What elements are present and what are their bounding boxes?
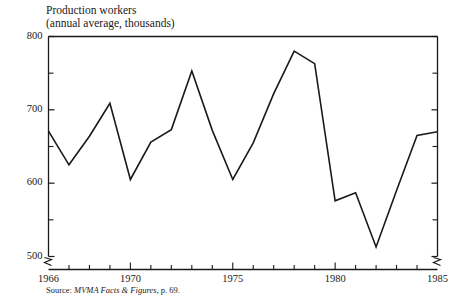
source-note: Source: MVMA Facts & Figures, p. 69. [46, 285, 180, 295]
source-suffix: , p. 69. [156, 285, 179, 295]
axis-break-mark [434, 258, 441, 266]
chart-plot-area [0, 0, 459, 304]
data-line-production-workers [49, 51, 438, 247]
x-tick-label-1966: 1966 [29, 273, 69, 284]
y-tick-label-700: 700 [13, 103, 43, 114]
y-tick-label-500: 500 [13, 250, 43, 261]
y-tick-label-600: 600 [13, 176, 43, 187]
x-tick-label-1970: 1970 [110, 273, 150, 284]
x-tick-label-1980: 1980 [315, 273, 355, 284]
chart-figure: Production workers (annual average, thou… [0, 0, 459, 304]
x-tick-label-1985: 1985 [418, 273, 458, 284]
axis-break-mark [45, 258, 52, 266]
source-prefix: Source: [46, 285, 74, 295]
source-publication: MVMA Facts & Figures [74, 285, 156, 295]
x-tick-label-1975: 1975 [213, 273, 253, 284]
y-tick-label-800: 800 [13, 30, 43, 41]
